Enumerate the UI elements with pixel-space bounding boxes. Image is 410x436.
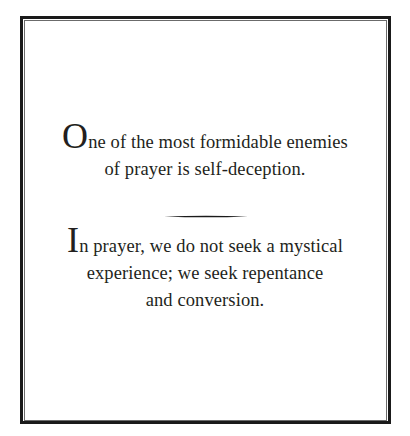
quote-paragraph-1: One of the most formidable enemies of pr… [40, 129, 370, 183]
line-text: ne of the most formidable enemies [88, 132, 348, 152]
drop-cap: I [67, 220, 79, 260]
quote-line: In prayer, we do not seek a mystical [40, 233, 370, 260]
line-text: n prayer, we do not seek a mystical [79, 236, 343, 256]
tapered-divider [164, 215, 248, 218]
quote-line: of prayer is self-deception. [40, 156, 370, 183]
quote-line: One of the most formidable enemies [40, 129, 370, 156]
drop-cap: O [62, 116, 88, 156]
quote-line: experience; we seek repentance [40, 260, 370, 287]
quote-paragraph-2: In prayer, we do not seek a mystical exp… [40, 233, 370, 314]
quote-line: and conversion. [40, 287, 370, 314]
